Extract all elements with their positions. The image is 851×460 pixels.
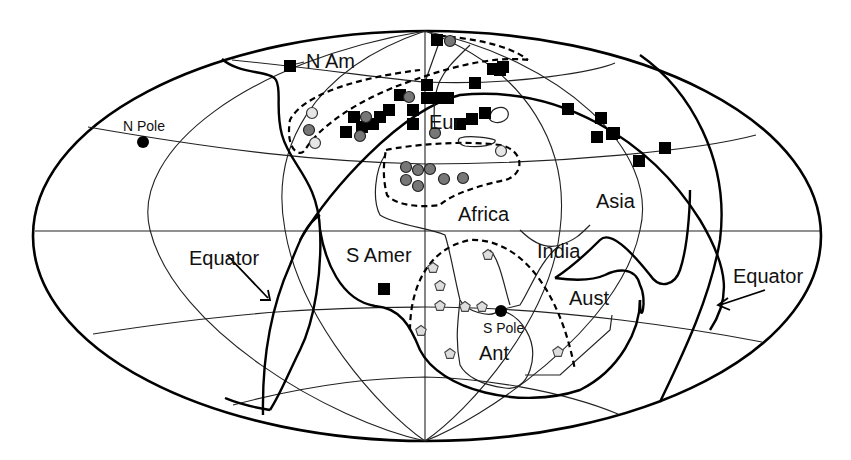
black-square-marker	[340, 126, 352, 138]
black-square-markers	[284, 34, 671, 295]
dark-gray-circle-marker	[413, 181, 424, 192]
label-africa: Africa	[458, 203, 510, 225]
dark-gray-circle-marker	[401, 175, 412, 186]
south-pole-marker	[495, 305, 507, 317]
black-square-marker	[466, 113, 478, 125]
black-square-marker	[407, 104, 419, 116]
paleogeographic-map: N Am Eur Africa Asia S Amer India Aust A…	[0, 0, 851, 460]
dark-gray-circle-marker	[355, 131, 366, 142]
small-loop-outline	[458, 137, 495, 147]
dark-gray-circle-marker	[361, 112, 372, 123]
label-asia: Asia	[596, 190, 636, 212]
black-square-marker	[378, 283, 390, 295]
black-square-marker	[421, 79, 433, 91]
label-n-pole: N Pole	[123, 118, 165, 134]
light-gray-circle-marker	[307, 108, 318, 119]
light-gray-circle-marker	[310, 138, 321, 149]
small-loop-outline	[489, 107, 508, 122]
dark-gray-circle-marker	[304, 125, 315, 136]
black-square-marker	[479, 107, 491, 119]
black-square-marker	[469, 77, 481, 89]
label-n-am: N Am	[306, 50, 355, 72]
label-aust: Aust	[569, 287, 609, 309]
black-square-marker	[421, 92, 433, 104]
gray-pentagon-marker	[477, 302, 487, 312]
label-eur: Eur	[429, 111, 460, 133]
dark-gray-circle-marker	[439, 174, 450, 185]
gray-pentagon-marker	[435, 281, 445, 291]
gray-pentagon-marker	[553, 347, 563, 357]
label-s-amer: S Amer	[346, 244, 412, 266]
gray-pentagon-marker	[435, 301, 445, 311]
black-square-marker	[442, 92, 454, 104]
label-ant: Ant	[479, 342, 509, 364]
label-equator-right: Equator	[733, 265, 803, 287]
dark-gray-circle-marker	[425, 164, 436, 175]
gray-pentagon-marker	[428, 263, 438, 273]
black-square-marker	[633, 155, 645, 167]
equator-arrows	[228, 256, 765, 310]
black-square-marker	[494, 64, 506, 76]
dark-gray-circle-marker	[445, 36, 456, 47]
dark-gray-circle-marker	[458, 173, 469, 184]
gray-pentagon-marker	[445, 349, 455, 359]
black-square-marker	[284, 60, 296, 72]
light-gray-circle-marker	[496, 146, 507, 157]
black-square-marker	[383, 104, 395, 116]
dark-gray-circle-marker	[413, 165, 424, 176]
dark-gray-circle-marker	[404, 92, 415, 103]
black-square-marker	[562, 103, 574, 115]
dark-gray-circle-marker	[401, 162, 412, 173]
label-equator-left: Equator	[189, 247, 259, 269]
black-square-marker	[431, 34, 443, 46]
black-square-marker	[591, 131, 603, 143]
label-india: India	[537, 240, 581, 262]
label-s-pole: S Pole	[483, 320, 524, 336]
black-square-marker	[606, 128, 618, 140]
black-square-marker	[659, 142, 671, 154]
black-square-marker	[595, 112, 607, 124]
black-square-marker	[407, 118, 419, 130]
north-pole-marker	[137, 136, 149, 148]
